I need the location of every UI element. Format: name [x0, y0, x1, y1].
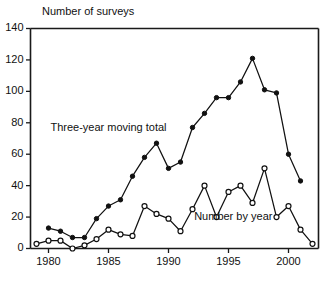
data-point	[154, 211, 159, 216]
data-point	[70, 235, 74, 239]
data-point	[250, 56, 254, 60]
data-point	[154, 141, 158, 145]
data-point	[310, 241, 315, 246]
data-point	[178, 229, 183, 234]
data-point	[238, 183, 243, 188]
data-point	[226, 189, 231, 194]
y-axis-title: Number of surveys	[42, 5, 135, 17]
chart-container: Number of surveys 020406080100120140 198…	[0, 0, 329, 282]
data-point	[262, 88, 266, 92]
data-point	[118, 198, 122, 202]
data-point	[286, 152, 290, 156]
data-point	[286, 204, 291, 209]
y-tick-label-40: 40	[11, 179, 23, 191]
data-point	[298, 179, 302, 183]
y-tick-label-140: 140	[5, 21, 23, 33]
data-point	[34, 241, 39, 246]
x-tick-label-1980: 1980	[36, 255, 60, 267]
data-point	[58, 229, 62, 233]
y-tick-label-80: 80	[11, 116, 23, 128]
data-point	[274, 91, 278, 95]
data-point	[250, 200, 255, 205]
data-point	[46, 238, 51, 243]
series-annotation-1: Three-year moving total	[50, 121, 166, 133]
data-point	[202, 111, 206, 115]
data-point	[118, 232, 123, 237]
data-point	[142, 155, 146, 159]
x-tick-label-1990: 1990	[156, 255, 180, 267]
data-point	[226, 95, 230, 99]
data-point	[82, 235, 86, 239]
data-point	[106, 227, 111, 232]
data-point	[130, 174, 134, 178]
series-annotation-2: Number by year	[194, 210, 273, 222]
data-point	[94, 237, 99, 242]
data-point	[130, 233, 135, 238]
x-tick-label-1985: 1985	[96, 255, 120, 267]
x-tick-label-1995: 1995	[216, 255, 240, 267]
y-tick-label-100: 100	[5, 84, 23, 96]
x-tick-label-2000: 2000	[276, 255, 300, 267]
data-point	[166, 166, 170, 170]
data-point	[166, 216, 171, 221]
data-point	[202, 183, 207, 188]
y-tick-label-20: 20	[11, 210, 23, 222]
data-point	[238, 80, 242, 84]
data-point	[298, 227, 303, 232]
data-point	[106, 204, 110, 208]
data-point	[58, 238, 63, 243]
data-point	[82, 243, 87, 248]
data-point	[46, 226, 50, 230]
survey-line-chart: Number of surveys 020406080100120140 198…	[0, 0, 329, 282]
data-point	[262, 166, 267, 171]
y-tick-label-60: 60	[11, 147, 23, 159]
data-point	[190, 125, 194, 129]
y-tick-label-120: 120	[5, 53, 23, 65]
data-point	[214, 95, 218, 99]
data-point	[70, 246, 75, 251]
data-point	[94, 216, 98, 220]
data-point	[142, 204, 147, 209]
data-point	[178, 160, 182, 164]
y-tick-label-0: 0	[17, 241, 23, 253]
data-point	[274, 215, 279, 220]
